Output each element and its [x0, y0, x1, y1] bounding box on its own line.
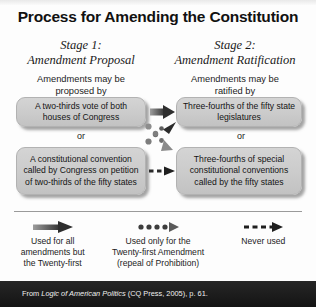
legend-dotted-line1: Used only for the — [105, 236, 210, 247]
box-proposal-constitutional-convention: A constitutional convention called by Co… — [16, 147, 146, 195]
stage-2-subtitle: Amendment Ratification — [160, 53, 310, 68]
stage-1-heading: Stage 1: Amendment Proposal — [6, 38, 156, 68]
legend-item-dotted: Used only for the Twenty-first Amendment… — [105, 219, 210, 269]
legend-dotted-line2: Twenty-first Amendment — [105, 247, 210, 258]
legend-caption-dashed: Never used — [211, 236, 316, 247]
arrow-solid-congress-to-legislatures — [150, 105, 175, 119]
arrow-dotted-convention-to-legislatures — [145, 122, 176, 145]
citation-title: Logic of American Politics — [41, 289, 125, 298]
solid-arrow-icon — [0, 219, 105, 235]
box-ratification-state-conventions: Three-fourths of special constitutional … — [176, 147, 302, 195]
legend-item-dashed: Never used — [211, 219, 316, 269]
stage-2-label: Stage 2: — [214, 38, 255, 52]
legend-dashed-line1: Never used — [211, 236, 316, 247]
or-label-right: or — [176, 131, 306, 141]
stage-1-subtitle: Amendment Proposal — [6, 53, 156, 68]
stage-1-leadin-line1: Amendments may be — [37, 74, 125, 84]
legend-solid-line2: amendments but — [0, 247, 105, 258]
box-ratification-state-legislatures: Three-fourths of the fifty state legisla… — [176, 97, 302, 127]
stage-1-leadin-line2: proposed by — [55, 86, 106, 96]
stage-2-heading: Stage 2: Amendment Ratification — [160, 38, 310, 68]
footer-band: From Logic of American Politics (CQ Pres… — [0, 281, 316, 307]
legend-divider — [14, 211, 302, 212]
source-citation: From Logic of American Politics (CQ Pres… — [22, 289, 208, 298]
top-edge-strip — [0, 0, 316, 5]
figure-amendment-process: Process for Amending the Constitution St… — [0, 0, 316, 307]
stage-2-leadin-line2: ratified by — [215, 86, 255, 96]
stage-1-label: Stage 1: — [60, 38, 101, 52]
box-proposal-congress-vote: A two-thirds vote of both houses of Cong… — [16, 97, 146, 127]
dotted-arrow-icon — [105, 219, 210, 235]
legend-solid-line1: Used for all — [0, 236, 105, 247]
legend-dotted-line3: (repeal of Prohibition) — [105, 258, 210, 269]
legend-caption-dotted: Used only for the Twenty-first Amendment… — [105, 236, 210, 269]
dashed-arrow-icon — [211, 219, 316, 235]
legend-item-solid: Used for all amendments but the Twenty-f… — [0, 219, 105, 269]
arrow-dashed-convention-to-conventions — [149, 167, 175, 176]
legend-solid-line3: the Twenty-first — [0, 258, 105, 269]
stage-2-leadin-line1: Amendments may be — [191, 74, 279, 84]
citation-suffix: (CQ Press, 2005), p. 61. — [126, 289, 208, 298]
or-label-left: or — [16, 131, 146, 141]
legend: Used for all amendments but the Twenty-f… — [0, 219, 316, 269]
legend-caption-solid: Used for all amendments but the Twenty-f… — [0, 236, 105, 269]
arrow-dotted-congress-to-conventions — [145, 123, 173, 151]
stage-2-leadin: Amendments may be ratified by — [160, 74, 310, 97]
stage-1-leadin: Amendments may be proposed by — [6, 74, 156, 97]
figure-title: Process for Amending the Constitution — [0, 8, 316, 26]
citation-prefix: From — [22, 289, 41, 298]
